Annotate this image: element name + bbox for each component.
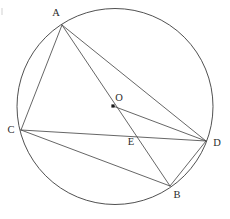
segment-AD: [62, 25, 206, 141]
point-label-B: B: [173, 189, 180, 200]
geometry-diagram: A B C D E O: [0, 0, 230, 219]
segment-AB: [62, 25, 170, 186]
segment-BD: [170, 141, 206, 186]
geometry-canvas: A B C D E O: [0, 0, 230, 219]
point-label-O: O: [115, 92, 123, 103]
scan-artifact: [1, 8, 3, 15]
segment-AC: [21, 25, 62, 130]
point-label-E: E: [128, 136, 134, 147]
point-label-C: C: [7, 124, 14, 135]
point-label-A: A: [52, 7, 60, 18]
segment-CB: [21, 130, 170, 186]
segment-CD: [21, 130, 206, 141]
point-label-D: D: [213, 137, 221, 148]
center-point-marker: [111, 104, 114, 107]
